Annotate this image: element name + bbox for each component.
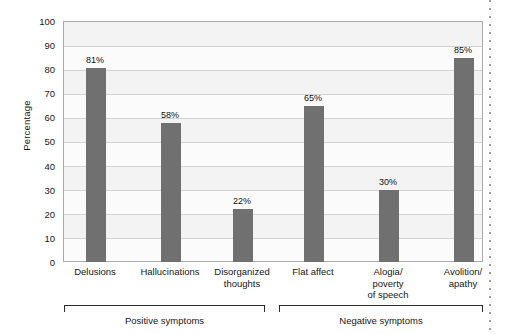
gridline — [64, 94, 482, 95]
y-tick-label: 30 — [3, 185, 55, 196]
gridline — [64, 214, 482, 215]
bar-value-label: 58% — [147, 110, 193, 120]
plot-area — [63, 21, 483, 262]
group-bracket-positive — [64, 305, 265, 312]
y-tick-label: 20 — [3, 209, 55, 220]
plot-band — [64, 94, 482, 118]
bar-hallucinations — [161, 123, 181, 262]
y-tick-label: 40 — [3, 161, 55, 172]
bar-disorganized — [233, 209, 253, 262]
bar-chart-figure: Percentage 100 90 80 70 60 50 40 30 20 1… — [0, 0, 505, 334]
y-tick-label: 0 — [3, 257, 55, 268]
y-tick-label: 100 — [3, 16, 55, 27]
y-tick-label: 70 — [3, 88, 55, 99]
y-tick-label: 80 — [3, 64, 55, 75]
y-tick-label: 10 — [3, 233, 55, 244]
group-label-positive: Positive symptoms — [64, 315, 265, 326]
gridline — [64, 238, 482, 239]
bar-value-label: 30% — [365, 177, 411, 187]
plot-band — [64, 190, 482, 214]
gridline — [64, 46, 482, 47]
gridline — [64, 142, 482, 143]
plot-band — [64, 238, 482, 261]
group-label-negative: Negative symptoms — [279, 315, 483, 326]
gridline — [64, 166, 482, 167]
bar-avolition — [454, 58, 474, 262]
plot-band — [64, 142, 482, 166]
bar-alogia — [379, 190, 399, 262]
bar-value-label: 65% — [290, 93, 336, 103]
bar-delusions — [86, 68, 106, 262]
gridline — [64, 118, 482, 119]
bar-flat-affect — [304, 106, 324, 262]
bar-value-label: 85% — [440, 45, 486, 55]
category-label-avolition: Avolition/ apathy — [417, 266, 505, 289]
y-tick-label: 60 — [3, 112, 55, 123]
page-edge-dotted-line — [489, 0, 491, 334]
bar-value-label: 81% — [72, 55, 118, 65]
gridline — [64, 70, 482, 71]
group-bracket-negative — [279, 305, 483, 312]
gridline — [64, 190, 482, 191]
y-tick-label: 50 — [3, 136, 55, 147]
bar-value-label: 22% — [219, 196, 265, 206]
y-tick-label: 90 — [3, 40, 55, 51]
plot-band — [64, 46, 482, 70]
